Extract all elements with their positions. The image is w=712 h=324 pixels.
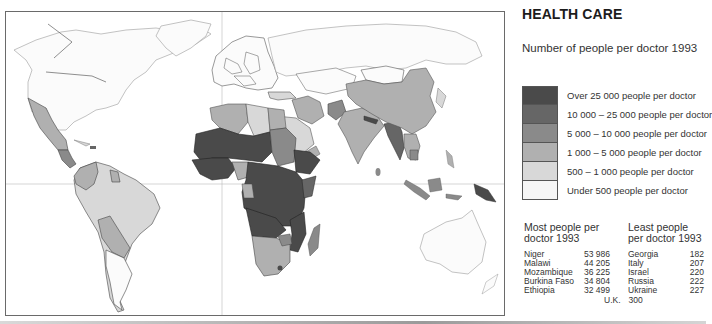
- legend-swatch: [522, 181, 558, 200]
- region-australia: [420, 210, 486, 274]
- most-people-per-doctor-table: Most people per doctor 1993 Niger53 986 …: [524, 222, 610, 295]
- legend-item: 5 000 – 10 000 people per doctor: [522, 124, 712, 143]
- least-heading: Least people per doctor 1993: [628, 222, 704, 244]
- least-people-per-doctor-table: Least people per doctor 1993 Georgia182 …: [628, 222, 704, 295]
- uk-value: 300: [629, 295, 643, 305]
- legend-label: 500 – 1 000 people per doctor: [567, 166, 694, 177]
- table-row: Ethiopia32 499: [524, 286, 610, 295]
- region-turkey: [268, 92, 296, 100]
- legend-label: Over 25 000 people per doctor: [567, 90, 696, 101]
- legend-swatch: [522, 124, 558, 143]
- table-row: Ukraine227: [628, 286, 704, 295]
- region-egypt: [268, 108, 286, 130]
- region-sudan: [270, 128, 296, 166]
- legend-item: Over 25 000 people per doctor: [522, 86, 712, 105]
- region-indonesia: [404, 178, 462, 200]
- map-subtitle: Number of people per doctor 1993: [522, 42, 697, 54]
- region-madagascar: [308, 224, 320, 256]
- legend-swatch: [522, 105, 558, 124]
- legend-item: 10 000 – 25 000 people per doctor: [522, 105, 712, 124]
- uk-reference: U.K.300: [604, 295, 643, 305]
- region-haiti: [90, 146, 96, 149]
- region-argentina: [106, 250, 132, 310]
- legend-item: 1 000 – 5 000 people per doctor: [522, 143, 712, 162]
- legend-item: 500 – 1 000 people per doctor: [522, 162, 712, 181]
- region-central-america: [58, 150, 76, 168]
- legend-label: 1 000 – 5 000 people per doctor: [567, 147, 702, 158]
- world-map: [5, 11, 505, 316]
- legend-item: Under 500 people per doctor: [522, 181, 712, 200]
- country-value: 227: [690, 286, 704, 295]
- legend-label: 5 000 – 10 000 people per doctor: [567, 128, 707, 139]
- legend-label: Under 500 people per doctor: [567, 185, 688, 196]
- legend-label: 10 000 – 25 000 people per doctor: [567, 109, 712, 120]
- country-value: 32 499: [584, 286, 610, 295]
- region-west-africa: [192, 158, 236, 180]
- country-name: Ethiopia: [524, 286, 555, 295]
- region-papua-new-guinea: [474, 184, 496, 202]
- legend: Over 25 000 people per doctor 10 000 – 2…: [522, 86, 712, 200]
- world-map-svg: [6, 12, 505, 316]
- uk-label: U.K.: [604, 295, 621, 305]
- region-libya: [246, 104, 270, 136]
- legend-swatch: [522, 162, 558, 181]
- country-name: Ukraine: [628, 286, 657, 295]
- most-heading: Most people per doctor 1993: [524, 222, 610, 244]
- page-title: HEALTH CARE: [522, 6, 622, 22]
- legend-swatch: [522, 86, 558, 105]
- legend-swatch: [522, 143, 558, 162]
